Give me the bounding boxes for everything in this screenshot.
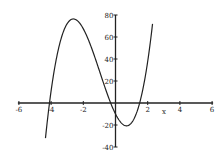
y-tick-label: 40 — [105, 56, 114, 64]
x-tick-label: 4 — [178, 106, 183, 114]
x-tick-label: 2 — [145, 106, 149, 114]
y-tick-label: 20 — [105, 78, 114, 86]
function-curve — [45, 19, 152, 138]
y-tick-label: 60 — [105, 34, 114, 42]
chart: -6-4-2246-40-2020406080 x — [0, 0, 221, 157]
y-tick-label: 80 — [105, 12, 114, 20]
x-tick-label: -6 — [15, 106, 22, 114]
x-tick-label: 6 — [210, 106, 215, 114]
x-axis-label: x — [162, 108, 166, 116]
x-tick-label: -2 — [80, 106, 87, 114]
y-tick-label: -40 — [102, 144, 113, 152]
y-tick-label: -20 — [102, 122, 113, 130]
